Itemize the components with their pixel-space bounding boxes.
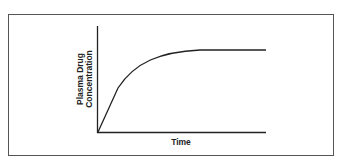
chart-frame: [9, 15, 334, 156]
y-axis-label-line2: Concentration: [84, 50, 94, 108]
chart-figure: Plasma Drug Concentration Time: [0, 0, 345, 166]
concentration-curve: [98, 50, 266, 132]
x-axis-label: Time: [171, 137, 191, 147]
